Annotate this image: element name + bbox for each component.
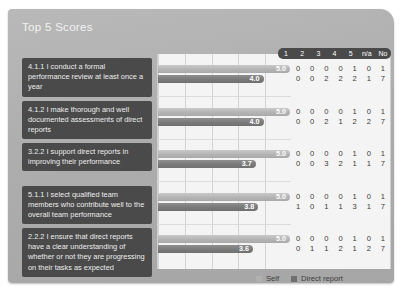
count-value: 1	[319, 244, 333, 252]
bar-value-label: 4.0	[250, 118, 264, 126]
legend-label: Self	[266, 274, 279, 283]
count-value: 0	[291, 149, 305, 158]
bar-track: 4.0	[158, 75, 290, 83]
count-value: 1	[348, 107, 362, 116]
count-value: 2	[348, 74, 362, 82]
count-value: 0	[319, 234, 333, 243]
row-label: 5.1.1 I select qualified team members wh…	[22, 186, 152, 225]
row-label: 4.1.1 I conduct a formal performance rev…	[22, 58, 152, 97]
bar-direct	[158, 75, 264, 83]
count-value: 7	[376, 117, 390, 125]
count-value: 1	[348, 64, 362, 73]
bar-direct	[158, 118, 264, 126]
bar-track: 5.0	[158, 193, 290, 201]
count-value: 7	[376, 202, 390, 210]
bar-track: 5.0	[158, 150, 290, 158]
bar-track: 5.0	[158, 108, 290, 116]
bar-self	[158, 150, 290, 158]
count-value: 0	[305, 74, 319, 82]
legend-item: Direct report	[291, 274, 343, 283]
row-counts: 00001010022217	[291, 64, 390, 82]
count-value: 1	[348, 192, 362, 201]
count-value: 0	[319, 64, 333, 73]
row-counts: 00001011011317	[291, 192, 390, 210]
count-value: 2	[319, 117, 333, 125]
count-value: 0	[362, 192, 376, 201]
count-value: 1	[348, 149, 362, 158]
count-value: 0	[333, 64, 347, 73]
count-value: 1	[376, 234, 390, 243]
count-value: 0	[333, 107, 347, 116]
legend-label: Direct report	[301, 274, 343, 283]
count-value: 0	[305, 107, 319, 116]
count-value: 1	[376, 64, 390, 73]
bar-value-label: 3.7	[242, 160, 256, 168]
count-value: 0	[305, 234, 319, 243]
count-value: 0	[362, 64, 376, 73]
bar-value-label: 4.0	[250, 75, 264, 83]
count-value: 0	[362, 234, 376, 243]
count-value: 0	[333, 149, 347, 158]
bar-self	[158, 193, 290, 201]
count-line-self: 0000101	[291, 234, 390, 243]
row-bars: 5.04.0	[158, 65, 290, 85]
count-line-direct: 0112127	[291, 243, 390, 252]
count-column-label: No	[375, 48, 391, 59]
bar-self	[158, 108, 290, 116]
bar-value-label: 5.0	[276, 108, 290, 116]
count-value: 0	[305, 202, 319, 210]
count-value: 0	[362, 107, 376, 116]
count-value: 7	[376, 159, 390, 167]
count-line-direct: 1011317	[291, 201, 390, 210]
count-value: 2	[333, 159, 347, 167]
count-value: 2	[333, 244, 347, 252]
count-value: 1	[348, 244, 362, 252]
count-value: 3	[319, 159, 333, 167]
bar-self	[158, 65, 290, 73]
bar-track: 3.8	[158, 203, 290, 211]
count-value: 1	[291, 202, 305, 210]
count-value: 0	[333, 192, 347, 201]
count-value: 1	[348, 159, 362, 167]
count-value: 1	[333, 117, 347, 125]
bar-value-label: 3.8	[244, 203, 258, 211]
bar-value-label: 5.0	[276, 150, 290, 158]
legend-item: Self	[256, 274, 279, 283]
row-bars: 5.03.7	[158, 150, 290, 170]
count-value: 1	[319, 202, 333, 210]
count-value: 0	[319, 107, 333, 116]
bar-direct	[158, 203, 258, 211]
count-value: 1	[376, 107, 390, 116]
count-value: 0	[291, 117, 305, 125]
count-column-label: 4	[326, 48, 342, 59]
count-value: 0	[305, 192, 319, 201]
bar-track: 3.7	[158, 160, 290, 168]
row-separator	[157, 224, 291, 225]
count-value: 1	[362, 159, 376, 167]
chart-legend: SelfDirect report	[256, 274, 343, 283]
count-value: 1	[305, 244, 319, 252]
count-column-label: 3	[310, 48, 326, 59]
row-label: 3.2.2 I support direct reports in improv…	[22, 143, 152, 171]
row-bars: 5.04.0	[158, 108, 290, 128]
page-title: Top 5 Scores	[22, 21, 93, 33]
bar-track: 5.0	[158, 65, 290, 73]
count-line-direct: 0021227	[291, 116, 390, 125]
count-value: 0	[362, 149, 376, 158]
count-value: 1	[333, 202, 347, 210]
count-value: 2	[362, 117, 376, 125]
bar-track: 3.6	[158, 245, 290, 253]
legend-swatch-icon	[291, 276, 297, 282]
count-value: 0	[291, 159, 305, 167]
bar-value-label: 5.0	[276, 65, 290, 73]
count-value: 2	[348, 117, 362, 125]
count-column-label: 5	[343, 48, 359, 59]
count-value: 0	[291, 107, 305, 116]
bar-self	[158, 235, 290, 243]
count-value: 0	[319, 149, 333, 158]
row-separator	[157, 181, 291, 182]
count-value: 0	[291, 234, 305, 243]
count-value: 0	[319, 192, 333, 201]
row-separator	[157, 139, 291, 140]
row-label: 2.2.2 I ensure that direct reports have …	[22, 228, 152, 277]
